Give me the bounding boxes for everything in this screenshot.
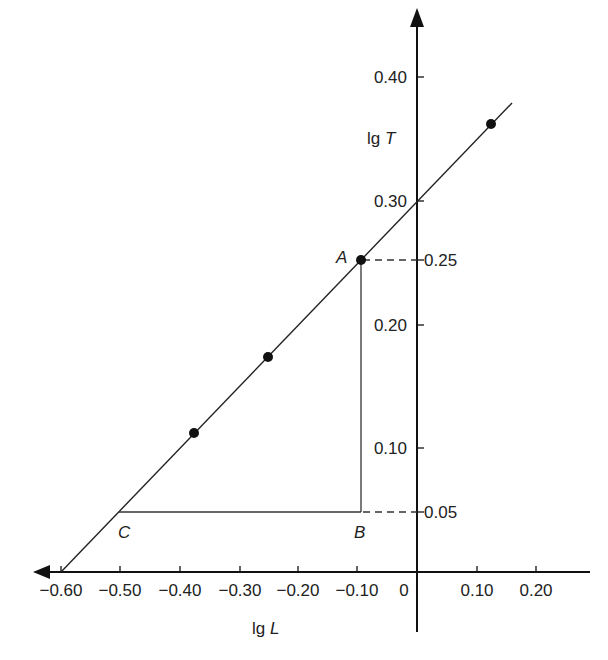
y-tick-label: 0.05 (424, 503, 457, 522)
data-point (189, 428, 199, 438)
data-point-a (356, 255, 366, 265)
x-axis-arrow-icon (33, 565, 50, 579)
data-point (263, 352, 273, 362)
y-tick-label: 0.10 (374, 439, 407, 458)
chart-canvas: −0.60 −0.50 −0.40 −0.30 −0.20 −0.10 0 0.… (0, 0, 608, 660)
x-tick-label: 0.20 (519, 581, 552, 600)
y-tick-label: 0.25 (424, 251, 457, 270)
point-label-a: A (335, 248, 347, 267)
y-axis-label: lg T (367, 129, 397, 148)
y-tick-label: 0.40 (374, 68, 407, 87)
best-fit-line (61, 103, 512, 572)
x-tick-label: −0.20 (276, 581, 319, 600)
x-axis-label: lg L (252, 619, 279, 638)
y-ticks (417, 77, 424, 512)
x-tick-label: −0.60 (39, 581, 82, 600)
y-tick-label: 0.20 (374, 316, 407, 335)
x-tick-label: −0.10 (335, 581, 378, 600)
point-label-c: C (118, 523, 131, 542)
y-tick-label: 0.30 (374, 192, 407, 211)
x-tick-label: −0.50 (98, 581, 141, 600)
point-label-b: B (354, 523, 365, 542)
y-axis-arrow-icon (410, 8, 424, 27)
x-tick-label: 0 (399, 581, 408, 600)
x-tick-label: −0.40 (158, 581, 201, 600)
x-tick-label: −0.30 (218, 581, 261, 600)
x-tick-label: 0.10 (460, 581, 493, 600)
x-tick-labels: −0.60 −0.50 −0.40 −0.30 −0.20 −0.10 0 0.… (39, 581, 552, 600)
data-point (486, 119, 496, 129)
